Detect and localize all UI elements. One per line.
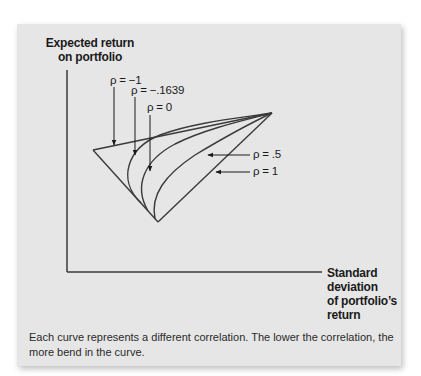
label-rho-neg1639: ρ = −.1639 xyxy=(131,84,184,96)
curve-rho-0 xyxy=(142,113,272,211)
curve-rho-neg1639 xyxy=(128,113,272,203)
curve-rho-neg1-lower xyxy=(93,150,158,222)
label-rho-05: ρ = .5 xyxy=(253,148,281,160)
efficient-frontier-chart xyxy=(0,0,421,376)
figure-caption: Each curve represents a different correl… xyxy=(29,330,399,360)
label-rho-0: ρ = 0 xyxy=(147,101,172,113)
curve-rho-neg1-upper xyxy=(93,113,272,150)
label-rho-1: ρ = 1 xyxy=(253,165,278,177)
